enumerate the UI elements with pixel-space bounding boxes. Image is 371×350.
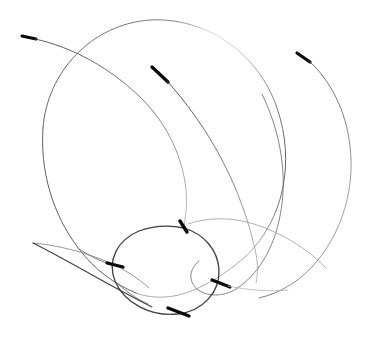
bottom-left-connector (115, 281, 148, 304)
tip-upper-right-icon (297, 53, 310, 62)
inner-diagonal-path (167, 81, 258, 283)
left-lens-sliver (33, 243, 152, 307)
tip-ellipse-top-icon (180, 221, 187, 232)
tip-upper-middle-icon (152, 67, 168, 82)
central-ellipse-path (112, 226, 219, 314)
sketch-canvas (0, 0, 371, 350)
bottom-left-connector-path (115, 281, 148, 304)
upper-left-whisker-path (35, 39, 187, 226)
upper-left-whisker (22, 36, 187, 226)
outer-loop-large (43, 20, 286, 297)
outer-loop-upper-arc (43, 20, 286, 256)
tip-upper-left-icon (22, 36, 36, 39)
tip-ellipse-left-icon (107, 263, 123, 267)
lens-lower-edge (33, 243, 152, 307)
tip-ellipse-right-icon (212, 280, 230, 287)
central-ellipse (112, 226, 219, 314)
sketch-svg (0, 0, 371, 350)
ellipse-tick-marks (107, 221, 230, 316)
inner-diagonal-stroke (152, 67, 258, 283)
inner-right-arc (191, 94, 283, 295)
inner-right-arc-path (191, 94, 283, 295)
lens-upper-edge (33, 243, 149, 288)
right-sweep (259, 53, 351, 298)
